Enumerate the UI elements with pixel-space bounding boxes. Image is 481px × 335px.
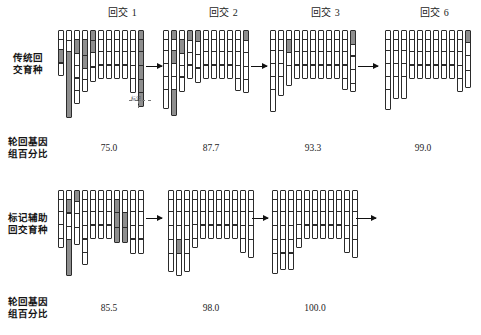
recurrent-segment bbox=[196, 69, 200, 83]
recurrent-segment bbox=[273, 254, 277, 273]
chromosome bbox=[195, 30, 201, 83]
recurrent-segment bbox=[249, 191, 253, 199]
recurrent-segment bbox=[410, 40, 414, 51]
chromosome bbox=[385, 30, 391, 110]
recurrent-segment bbox=[172, 40, 176, 50]
recurrent-segment bbox=[75, 202, 79, 213]
recurrent-segment bbox=[327, 40, 331, 51]
recurrent-segment bbox=[59, 212, 63, 224]
recurrent-segment bbox=[335, 31, 339, 39]
recurrent-segment bbox=[271, 40, 275, 50]
recurrent-segment bbox=[204, 52, 208, 64]
recurrent-segment bbox=[241, 239, 245, 252]
recurrent-segment bbox=[220, 52, 224, 64]
chromosome bbox=[401, 30, 407, 99]
chromosome bbox=[344, 190, 350, 253]
recurrent-segment bbox=[177, 212, 181, 225]
recurrent-segment bbox=[297, 212, 301, 224]
recurrent-segment bbox=[386, 40, 390, 50]
recurrent-segment bbox=[442, 66, 446, 78]
recurrent-segment bbox=[225, 191, 229, 199]
recurrent-segment bbox=[329, 212, 333, 224]
recurrent-segment bbox=[99, 40, 103, 51]
recurrent-segment bbox=[67, 31, 71, 40]
recurrent-segment bbox=[75, 214, 79, 227]
recurrent-segment bbox=[131, 52, 135, 65]
recurrent-segment bbox=[458, 40, 462, 51]
chromosome bbox=[278, 30, 284, 96]
recurrent-segment bbox=[305, 226, 309, 238]
recurrent-segment bbox=[164, 90, 168, 108]
recurrent-segment bbox=[139, 191, 143, 199]
recurrent-segment bbox=[180, 66, 184, 77]
recurrent-segment bbox=[353, 200, 357, 211]
karyotype-group-top-3 bbox=[270, 30, 356, 112]
recurrent-segment bbox=[225, 226, 229, 238]
chromosome bbox=[200, 190, 206, 239]
recurrent-segment bbox=[185, 212, 189, 225]
recurrent-segment bbox=[233, 200, 237, 211]
chromosome bbox=[58, 30, 64, 76]
recurrent-segment bbox=[83, 226, 87, 239]
recurrent-segment bbox=[313, 212, 317, 224]
recurrent-segment bbox=[212, 40, 216, 51]
recurrent-segment bbox=[177, 254, 181, 275]
chromosome bbox=[130, 30, 136, 93]
recurrent-segment bbox=[305, 200, 309, 211]
recurrent-segment bbox=[83, 191, 87, 199]
chromosome bbox=[417, 30, 423, 79]
karyotype-group-bottom-2 bbox=[168, 190, 254, 276]
recurrent-segment bbox=[249, 200, 253, 211]
recurrent-segment bbox=[59, 191, 63, 199]
recurrent-segment bbox=[319, 66, 323, 78]
recurrent-segment bbox=[228, 31, 232, 39]
column-header-bc1: 回交 1 bbox=[108, 4, 137, 19]
recurrent-segment bbox=[172, 64, 176, 76]
recurrent-segment bbox=[212, 66, 216, 78]
recurrent-segment bbox=[220, 31, 224, 39]
recurrent-segment bbox=[295, 40, 299, 51]
recurrent-segment bbox=[169, 191, 173, 199]
recurrent-segment bbox=[343, 40, 347, 51]
donor-segment bbox=[351, 31, 355, 44]
recurrent-segment bbox=[241, 212, 245, 225]
recurrent-segment bbox=[244, 41, 248, 52]
recurrent-segment bbox=[329, 200, 333, 211]
recurrent-segment bbox=[131, 226, 135, 239]
recurrent-segment bbox=[394, 64, 398, 76]
recurrent-segment bbox=[139, 212, 143, 225]
recurrent-segment bbox=[123, 200, 127, 212]
chromosome bbox=[334, 30, 340, 79]
recurrent-segment bbox=[123, 31, 127, 39]
chromosome bbox=[98, 190, 104, 239]
donor-segment bbox=[287, 40, 291, 52]
chromosome bbox=[336, 190, 342, 239]
recurrent-segment bbox=[236, 31, 240, 39]
recurrent-segment bbox=[303, 66, 307, 78]
recurrent-segment bbox=[279, 77, 283, 95]
recurrent-segment bbox=[91, 191, 95, 199]
recurrent-segment bbox=[123, 66, 127, 78]
recurrent-segment bbox=[107, 66, 111, 78]
recurrent-segment bbox=[164, 31, 168, 39]
chromosome bbox=[114, 190, 120, 243]
backcross-breeding-figure: 回交 1 回交 2 回交 3 回交 6 传统回 交育种 轮回基因 组百分比 75… bbox=[0, 0, 481, 335]
recurrent-segment bbox=[410, 31, 414, 39]
recurrent-segment bbox=[351, 57, 355, 70]
recurrent-segment bbox=[169, 254, 173, 271]
recurrent-segment bbox=[321, 212, 325, 224]
recurrent-segment bbox=[450, 52, 454, 64]
recurrent-segment bbox=[426, 31, 430, 39]
recurrent-segment bbox=[75, 66, 79, 78]
recurrent-segment bbox=[410, 66, 414, 78]
recurrent-segment bbox=[466, 71, 470, 85]
recurrent-segment bbox=[273, 191, 277, 199]
marker-dash-right bbox=[142, 100, 151, 101]
recurrent-segment bbox=[225, 200, 229, 211]
recurrent-segment bbox=[345, 200, 349, 211]
row-label-marker-line1: 标记辅助 bbox=[8, 212, 48, 224]
recurrent-segment bbox=[329, 191, 333, 199]
recurrent-segment bbox=[220, 40, 224, 51]
chromosome bbox=[106, 30, 112, 79]
transition-arrow-bottom-3 bbox=[356, 218, 376, 219]
